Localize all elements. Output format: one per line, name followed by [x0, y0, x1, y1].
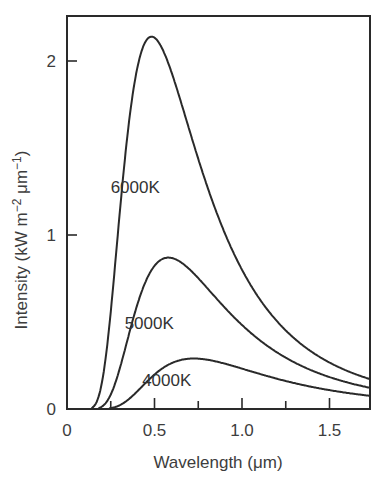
blackbody-spectrum-chart: 00.51.01.5 012 6000K5000K4000K Wavelengt… — [0, 0, 389, 487]
y-tick-label: 2 — [47, 52, 56, 71]
curve-6000k — [92, 37, 370, 408]
plot-frame — [67, 16, 370, 409]
y-axis-ticks: 012 — [47, 52, 77, 419]
y-tick-label: 0 — [47, 400, 56, 419]
series-label-6000k: 6000K — [111, 178, 161, 197]
series-label-5000k: 5000K — [125, 314, 175, 333]
x-tick-label: 1.0 — [230, 421, 254, 440]
x-tick-label: 0.5 — [143, 421, 167, 440]
y-tick-label: 1 — [47, 226, 56, 245]
x-tick-label: 0 — [62, 421, 71, 440]
x-axis-label: Wavelength (μm) — [153, 453, 282, 472]
y-axis-label: Intensity (kW m−2 μm−1) — [10, 151, 31, 330]
curves-layer — [92, 37, 370, 409]
x-tick-label: 1.5 — [318, 421, 342, 440]
series-label-4000k: 4000K — [142, 371, 192, 390]
